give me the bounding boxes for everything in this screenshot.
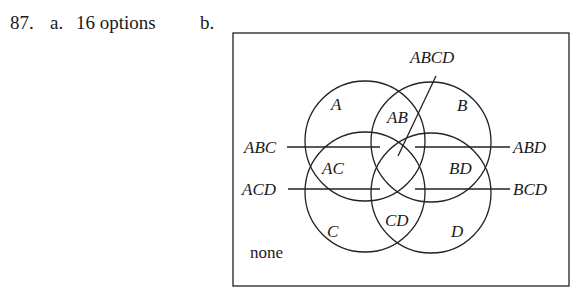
venn-diagram: ABCD A B AB ABC ABD AC BD ACD BCD CD C D… — [0, 0, 581, 299]
label-ac: AC — [321, 159, 344, 178]
label-a: A — [330, 95, 342, 114]
label-abc: ABC — [243, 138, 277, 157]
label-c: C — [327, 222, 339, 241]
label-cd: CD — [385, 211, 409, 230]
circle-b — [371, 82, 491, 202]
label-abcd: ABCD — [409, 48, 455, 67]
circle-c — [305, 132, 425, 252]
label-ab: AB — [386, 108, 408, 127]
label-bd: BD — [449, 159, 472, 178]
label-none: none — [250, 243, 283, 262]
universe-box — [233, 33, 569, 286]
circle-d — [371, 133, 491, 253]
label-acd: ACD — [241, 180, 277, 199]
label-abd: ABD — [512, 138, 547, 157]
label-d: D — [450, 222, 464, 241]
label-b: B — [457, 96, 468, 115]
label-bcd: BCD — [513, 180, 548, 199]
circle-a — [305, 81, 425, 201]
